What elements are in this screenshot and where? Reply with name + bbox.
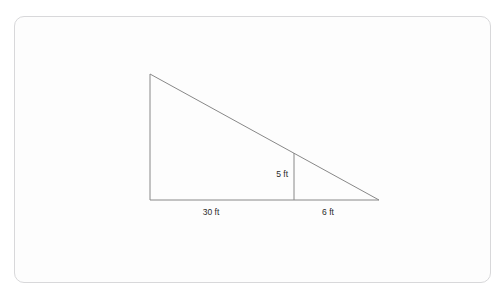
label-small-height: 5 ft [276, 169, 288, 179]
triangle-hypotenuse [150, 74, 379, 200]
triangle-figure: 5 ft 30 ft 6 ft [15, 17, 492, 284]
figure-card: 5 ft 30 ft 6 ft [14, 16, 491, 283]
clipped-heading-text [0, 0, 504, 3]
label-base-left: 30 ft [203, 207, 220, 217]
label-base-right: 6 ft [322, 207, 334, 217]
